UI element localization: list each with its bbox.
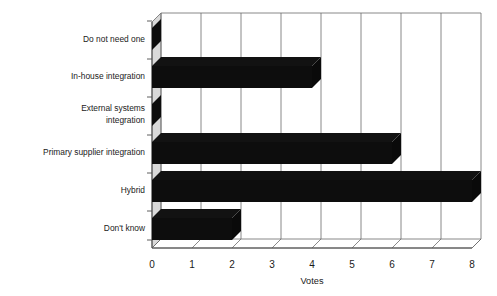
chart-canvas: Do not need one In-house integration Ext… [0,0,497,296]
bar-front-face [152,66,312,88]
bar-top-face [152,209,241,218]
x-tick-label-6: 6 [389,259,395,270]
bar-front-face [152,180,472,202]
bar-top-face [152,133,401,142]
x-axis-title: Votes [301,276,324,286]
bar-dont-know [152,209,241,240]
category-label-external-systems-integration-line1: External systems [81,103,145,113]
x-axis-tick-labels: 0 1 2 3 4 5 6 7 8 [149,259,475,270]
bar-top-face [152,57,321,66]
x-tick-label-2: 2 [229,259,235,270]
x-tick-label-5: 5 [349,259,355,270]
bar-hybrid [152,171,481,202]
x-tick-label-8: 8 [469,259,475,270]
bar-top-face [152,171,481,180]
x-tick-label-7: 7 [429,259,435,270]
bar-in-house-integration [152,57,321,88]
x-tick-label-4: 4 [309,259,315,270]
y-axis-ticks [147,21,152,240]
bar-front-face [152,142,392,164]
bar-front-face [152,218,232,240]
x-tick-label-0: 0 [149,259,155,270]
bar-chart: Do not need one In-house integration Ext… [0,0,497,296]
category-label-hybrid: Hybrid [121,185,146,195]
category-label-dont-know: Don't know [104,223,146,233]
bar-primary-supplier-integration [152,133,401,164]
x-tick-label-1: 1 [189,259,195,270]
y-axis-category-labels: Do not need one In-house integration Ext… [43,34,146,233]
category-label-primary-supplier-integration: Primary supplier integration [43,147,145,157]
category-label-do-not-need-one: Do not need one [83,34,145,44]
category-label-in-house-integration: In-house integration [71,71,145,81]
category-label-external-systems-integration-line2: integration [106,115,145,125]
x-tick-label-3: 3 [269,259,275,270]
